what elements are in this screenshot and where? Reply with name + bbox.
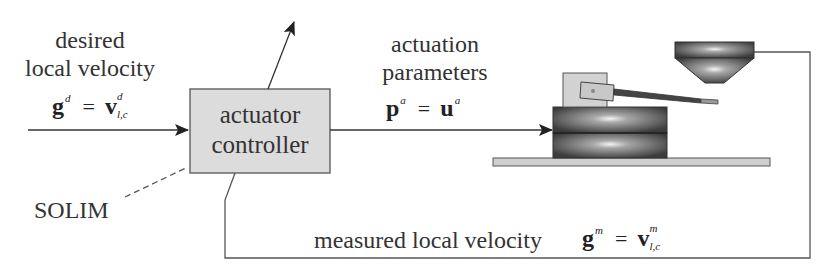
eq-lhs-sup: m xyxy=(595,224,603,236)
input-label: desired local velocity xyxy=(20,26,160,82)
eq-rhs-sup: a xyxy=(455,94,461,106)
controller-label: actuator controller xyxy=(190,100,330,160)
eq-lhs-sup: a xyxy=(400,94,406,106)
eq-rhs-sup: d xyxy=(117,90,123,102)
eq-lhs-sup: d xyxy=(65,92,71,104)
eq-lhs: g xyxy=(582,225,594,251)
eq-rhs: v xyxy=(637,225,649,251)
controller-label-line2: controller xyxy=(190,130,330,160)
input-label-line2: local velocity xyxy=(20,54,160,82)
turntable-platform xyxy=(493,158,770,166)
adaptation-arrow xyxy=(268,22,294,89)
arm-pivot xyxy=(591,89,595,93)
hopper-cone xyxy=(675,58,754,83)
input-equation: gd=vdl,c xyxy=(52,92,139,120)
solim-label: SOLIM xyxy=(34,196,109,224)
arm-tip xyxy=(701,99,718,104)
controller-label-line1: actuator xyxy=(190,100,330,130)
eq-sign: = xyxy=(615,226,627,251)
eq-rhs-sub: l,c xyxy=(649,240,660,252)
turntable-drum-upper xyxy=(553,107,667,133)
turntable-drum-lower xyxy=(553,133,667,158)
output-label-line1: actuation xyxy=(370,30,500,58)
output-equation: pa=ua xyxy=(386,94,460,122)
eq-rhs-sub: l,c xyxy=(117,108,128,120)
eq-lhs: g xyxy=(52,93,64,119)
eq-sign: = xyxy=(418,96,430,121)
eq-lhs: p xyxy=(386,95,399,121)
feedback-equation: gm=vml,c xyxy=(582,224,671,252)
feedback-label: measured local velocity xyxy=(314,226,542,254)
eq-rhs: u xyxy=(440,95,453,121)
arm-beam xyxy=(614,89,701,103)
output-label-line2: parameters xyxy=(370,58,500,86)
hopper-top xyxy=(675,42,754,58)
arm-head xyxy=(580,82,614,101)
eq-sign: = xyxy=(83,94,95,119)
eq-rhs: v xyxy=(105,93,117,119)
output-label: actuation parameters xyxy=(370,30,500,86)
eq-rhs-sup: m xyxy=(649,222,657,234)
input-label-line1: desired xyxy=(20,26,160,54)
solim-pointer xyxy=(125,167,188,197)
